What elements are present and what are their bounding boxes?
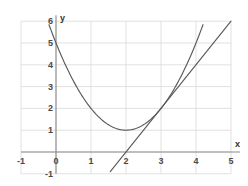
x-tick-label: 0 — [53, 157, 58, 166]
y-tick-label: 4 — [43, 60, 53, 69]
series-tangent-line — [110, 21, 231, 171]
series-group — [49, 21, 231, 171]
x-tick-label: 3 — [158, 157, 163, 166]
x-tick-label: 4 — [193, 157, 198, 166]
chart-figure: -1012345 -1123456 x y — [0, 0, 248, 186]
x-tick-label: 5 — [228, 157, 233, 166]
y-tick-label: 2 — [43, 104, 53, 113]
y-tick-label: 1 — [43, 126, 53, 135]
y-tick-label: 3 — [43, 82, 53, 91]
x-tick-label: 1 — [88, 157, 93, 166]
y-tick-label: 5 — [43, 39, 53, 48]
y-axis-label: y — [60, 14, 65, 23]
x-tick-label: 2 — [123, 157, 128, 166]
x-axis-label: x — [235, 140, 240, 149]
y-tick-label: 6 — [43, 17, 53, 26]
y-tick-label: -1 — [43, 169, 53, 178]
x-tick-label: -1 — [17, 157, 25, 166]
